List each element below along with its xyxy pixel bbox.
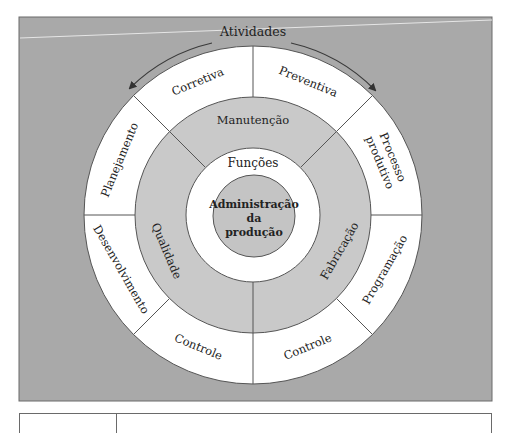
middle-segment-label: Manutenção [217, 113, 290, 127]
activities-label: Atividades [219, 24, 286, 39]
caption-table-box [19, 413, 492, 433]
center-label-line-3: produção [225, 226, 283, 239]
caption-table-divider [116, 414, 117, 433]
center-label-line-2: da [247, 212, 262, 225]
center-label-line-1: Administração [208, 198, 299, 211]
functions-label: Funções [228, 156, 279, 170]
